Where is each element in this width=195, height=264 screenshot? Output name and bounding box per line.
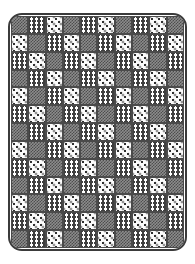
- quilt-square-triangle: [28, 52, 45, 70]
- quilt-square-dark-check: [63, 123, 80, 141]
- quilt-square-zigzag: [149, 87, 166, 105]
- quilt-square-dark-check: [167, 123, 184, 141]
- quilt-square-dark-check: [46, 212, 63, 230]
- quilt-square-triangle: [46, 16, 63, 34]
- quilt-square-zigzag: [132, 230, 149, 248]
- quilt-square-triangle: [28, 159, 45, 177]
- quilt-square-triangle: [115, 87, 132, 105]
- quilt-square-dark-check: [63, 230, 80, 248]
- quilt-square-zigzag: [97, 141, 114, 159]
- quilt-square-triangle: [167, 87, 184, 105]
- quilt-square-triangle: [149, 123, 166, 141]
- quilt-square-triangle: [149, 16, 166, 34]
- quilt-square-triangle: [28, 212, 45, 230]
- quilt-square-triangle: [28, 105, 45, 123]
- quilt-square-triangle: [46, 123, 63, 141]
- quilt-square-zigzag: [11, 52, 28, 70]
- quilt-square-zigzag: [132, 70, 149, 88]
- quilt-square-triangle: [167, 194, 184, 212]
- quilt-square-dark-check: [63, 70, 80, 88]
- quilt-square-triangle: [97, 16, 114, 34]
- quilt-square-zigzag: [132, 177, 149, 195]
- quilt-square-dark-check: [149, 159, 166, 177]
- quilt-border: [8, 13, 187, 251]
- quilt-square-zigzag: [80, 230, 97, 248]
- quilt-square-zigzag: [80, 123, 97, 141]
- quilt-square-dark-check: [46, 159, 63, 177]
- quilt-square-dark-check: [80, 141, 97, 159]
- quilt-square-zigzag: [80, 16, 97, 34]
- quilt-square-zigzag: [28, 230, 45, 248]
- quilt-square-zigzag: [63, 159, 80, 177]
- quilt-square-triangle: [46, 177, 63, 195]
- quilt-square-dark-check: [132, 34, 149, 52]
- quilt-square-zigzag: [132, 123, 149, 141]
- quilt-square-triangle: [115, 141, 132, 159]
- quilt-square-dark-check: [167, 70, 184, 88]
- quilt-square-triangle: [132, 105, 149, 123]
- quilt-illustration: [0, 0, 195, 264]
- quilt-square-dark-check: [115, 70, 132, 88]
- quilt-square-dark-check: [115, 123, 132, 141]
- quilt-square-triangle: [11, 87, 28, 105]
- quilt-square-dark-check: [97, 159, 114, 177]
- quilt-square-zigzag: [167, 52, 184, 70]
- quilt-square-dark-check: [11, 123, 28, 141]
- quilt-square-triangle: [115, 194, 132, 212]
- quilt-square-triangle: [132, 52, 149, 70]
- quilt-square-zigzag: [46, 141, 63, 159]
- quilt-square-zigzag: [46, 34, 63, 52]
- quilt-square-triangle: [97, 70, 114, 88]
- quilt-square-zigzag: [80, 177, 97, 195]
- quilt-square-triangle: [167, 141, 184, 159]
- quilt-square-dark-check: [132, 194, 149, 212]
- quilt-square-zigzag: [63, 52, 80, 70]
- quilt-square-dark-check: [11, 230, 28, 248]
- quilt-square-zigzag: [28, 123, 45, 141]
- quilt-square-zigzag: [115, 212, 132, 230]
- quilt-square-dark-check: [97, 105, 114, 123]
- quilt-square-zigzag: [11, 212, 28, 230]
- quilt-square-triangle: [80, 105, 97, 123]
- quilt-square-dark-check: [28, 87, 45, 105]
- quilt-square-dark-check: [115, 16, 132, 34]
- quilt-square-zigzag: [132, 16, 149, 34]
- quilt-square-dark-check: [97, 52, 114, 70]
- quilt-square-triangle: [63, 141, 80, 159]
- quilt-square-dark-check: [97, 212, 114, 230]
- quilt-square-triangle: [149, 230, 166, 248]
- quilt-square-dark-check: [80, 194, 97, 212]
- quilt-square-zigzag: [28, 70, 45, 88]
- quilt-square-triangle: [63, 34, 80, 52]
- quilt-square-zigzag: [97, 87, 114, 105]
- quilt-square-zigzag: [149, 34, 166, 52]
- quilt-square-zigzag: [115, 159, 132, 177]
- quilt-square-zigzag: [97, 34, 114, 52]
- quilt-square-dark-check: [80, 87, 97, 105]
- quilt-square-triangle: [97, 123, 114, 141]
- quilt-square-dark-check: [167, 230, 184, 248]
- quilt-square-dark-check: [11, 16, 28, 34]
- quilt-square-zigzag: [149, 194, 166, 212]
- quilt-square-zigzag: [115, 52, 132, 70]
- quilt-square-triangle: [11, 141, 28, 159]
- quilt-square-dark-check: [46, 52, 63, 70]
- quilt-square-triangle: [63, 87, 80, 105]
- quilt-square-triangle: [46, 230, 63, 248]
- quilt-square-dark-check: [149, 212, 166, 230]
- quilt-square-dark-check: [80, 34, 97, 52]
- quilt-square-dark-check: [63, 177, 80, 195]
- quilt-square-triangle: [132, 212, 149, 230]
- quilt-square-dark-check: [132, 141, 149, 159]
- quilt-square-dark-check: [46, 105, 63, 123]
- quilt-square-triangle: [115, 34, 132, 52]
- quilt-square-triangle: [132, 159, 149, 177]
- quilt-square-triangle: [97, 230, 114, 248]
- quilt-square-zigzag: [149, 141, 166, 159]
- quilt-square-dark-check: [63, 16, 80, 34]
- quilt-square-dark-check: [28, 194, 45, 212]
- quilt-square-dark-check: [115, 230, 132, 248]
- quilt-square-zigzag: [11, 105, 28, 123]
- quilt-square-triangle: [11, 194, 28, 212]
- quilt-square-triangle: [80, 159, 97, 177]
